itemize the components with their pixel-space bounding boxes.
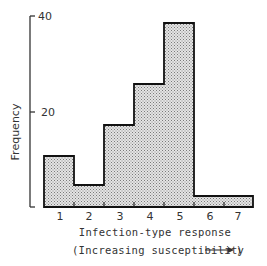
histogram-bars <box>44 23 253 207</box>
x-axis-label: Infection-type response <box>79 226 231 238</box>
x-tick-1: 1 <box>57 210 64 223</box>
x-axis-note-close-paren: ) <box>236 244 243 256</box>
histogram-area <box>44 23 253 207</box>
susceptibility-note: (Increasing susceptibility ) <box>72 244 244 256</box>
x-tick-7: 7 <box>235 210 242 223</box>
x-tick-5: 5 <box>177 210 184 223</box>
x-tick-6: 6 <box>207 210 214 223</box>
x-tick-2: 2 <box>86 210 93 223</box>
x-tick-3: 3 <box>117 210 124 223</box>
x-tick-4: 4 <box>147 210 154 223</box>
histogram-chart: 40 20 Frequency 1 2 3 4 5 6 7 Infection-… <box>0 0 267 266</box>
y-tick-40: 40 <box>38 10 52 23</box>
y-axis-label: Frequency <box>9 103 22 160</box>
y-tick-20: 20 <box>41 106 55 119</box>
